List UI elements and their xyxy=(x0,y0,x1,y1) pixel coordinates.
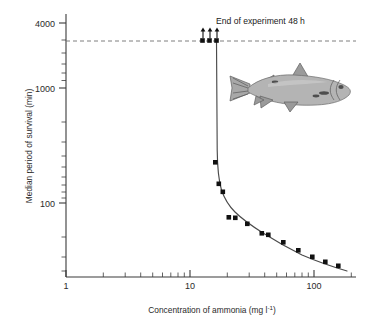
chart-svg: 4000 1000 100 1 10 xyxy=(0,0,368,326)
data-point xyxy=(245,222,250,227)
end-of-experiment-annotation: End of experiment 48 h xyxy=(216,16,305,26)
data-point xyxy=(217,182,222,187)
x-ticks xyxy=(66,270,351,277)
axes xyxy=(66,14,356,277)
x-axis-title-main: Concentration of ammonia (mg l xyxy=(148,305,267,315)
data-point xyxy=(310,255,315,260)
data-point xyxy=(221,190,226,195)
y-ticks xyxy=(59,23,66,271)
censored-arrows xyxy=(201,27,220,38)
data-point xyxy=(266,233,271,238)
data-point xyxy=(213,160,218,165)
data-point xyxy=(214,38,219,43)
data-point xyxy=(233,216,238,221)
chart-figure: 4000 1000 100 1 10 xyxy=(0,0,368,326)
data-point xyxy=(323,260,328,265)
y-tick-label-1000: 1000 xyxy=(35,84,55,94)
data-point xyxy=(281,240,286,245)
data-points xyxy=(200,38,340,268)
x-axis-title-tail: ) xyxy=(273,305,276,315)
data-point xyxy=(207,38,212,43)
up-arrow-icon xyxy=(201,27,206,38)
data-point xyxy=(227,215,232,220)
y-tick-label-4000: 4000 xyxy=(35,19,55,29)
x-tick-label-10: 10 xyxy=(185,281,195,291)
y-tick-label-100: 100 xyxy=(40,199,55,209)
up-arrow-icon xyxy=(208,27,213,38)
data-point xyxy=(200,38,205,43)
x-axis-title: Concentration of ammonia (mg l-1) xyxy=(148,304,276,315)
data-point xyxy=(336,264,341,269)
y-axis-title: Median period of survival (min) xyxy=(24,89,34,204)
fish-illustration xyxy=(230,63,350,112)
data-point xyxy=(296,248,301,253)
x-tick-label-100: 100 xyxy=(306,281,321,291)
data-point xyxy=(260,231,265,236)
up-arrow-icon xyxy=(215,27,220,38)
x-tick-label-1: 1 xyxy=(63,281,68,291)
